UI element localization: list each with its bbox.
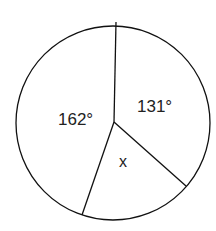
- sector-label-162: 162°: [58, 110, 93, 129]
- sector-label-131: 131°: [137, 97, 172, 116]
- sector-label-x: x: [119, 153, 127, 170]
- radius-top: [114, 22, 116, 122]
- circle-diagram: 162° 131° x: [0, 0, 216, 231]
- radius-lower-left: [82, 122, 114, 215]
